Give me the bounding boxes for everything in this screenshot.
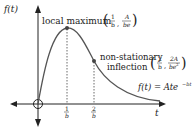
x-axis-label: t [155,108,159,118]
arrow-left-icon [10,101,17,107]
svg-text:b: b [65,112,69,119]
tick-label-2-over-b: 2 b [91,105,96,119]
svg-text:b: b [111,21,115,28]
svg-text:be: be [123,21,131,28]
svg-text:1: 1 [111,13,115,20]
svg-text:,: , [164,62,166,70]
svg-text:): ) [132,12,137,28]
svg-text:2: 2 [158,55,162,62]
svg-text:b: b [92,112,96,119]
svg-text:A: A [124,13,130,20]
svg-text:2A: 2A [169,55,179,62]
arrow-right-icon [159,101,166,107]
svg-text:2: 2 [92,105,96,112]
arrow-down-icon [35,119,41,127]
svg-text:b: b [158,63,162,70]
max-point [65,26,69,30]
function-graph: f(t) t local maximum ( 1 b , A be ) non-… [0,0,194,127]
function-exponent: −bt [182,81,192,87]
inflection-label-line2: inflection [107,62,148,72]
svg-text:(: ( [103,12,108,28]
svg-text:1: 1 [65,105,69,112]
function-label: f(t) = Ate [137,82,178,92]
y-axis-label: f(t) [3,4,18,14]
svg-text:,: , [117,20,119,28]
svg-text:(: ( [150,55,155,71]
svg-text:): ) [181,55,186,71]
tick-label-1-over-b: 1 b [64,105,69,119]
max-coordinate: ( 1 b , A be ) [103,12,137,28]
max-label: local maximum [42,16,112,26]
inflection-point [92,59,96,63]
arrow-up-icon [35,5,41,13]
